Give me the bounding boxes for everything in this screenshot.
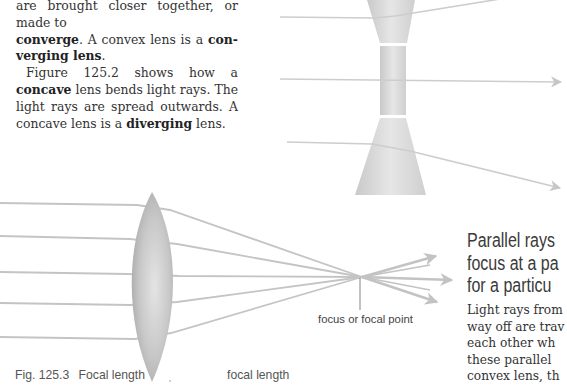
section-heading: Parallel rays focus at a pa for a partic… xyxy=(467,229,565,297)
concave-lens-top xyxy=(367,0,415,43)
figure-caption: Fig. 125.3 Focal length xyxy=(15,368,145,382)
convex-lens xyxy=(132,192,173,382)
focus-label: focus or focal point xyxy=(318,313,413,325)
ray-middle xyxy=(280,79,561,82)
ray-5 xyxy=(0,277,362,339)
section-body-text: Light rays from way off are trav each ot… xyxy=(467,302,567,385)
convex-rays xyxy=(0,203,362,339)
concave-lens xyxy=(355,0,426,195)
figure-number: Fig. 125.3 xyxy=(15,368,69,382)
concave-rays xyxy=(280,0,561,188)
ray-4 xyxy=(0,277,362,305)
convex-rays-exit xyxy=(362,256,452,302)
concave-lens-bottom xyxy=(355,118,426,195)
ray-2 xyxy=(0,236,362,277)
figure-title: Focal length xyxy=(79,368,145,382)
ray-3 xyxy=(0,272,362,277)
ray-bottom xyxy=(287,142,560,188)
focal-length-label: focal length xyxy=(227,368,289,382)
ray-1 xyxy=(0,203,362,277)
